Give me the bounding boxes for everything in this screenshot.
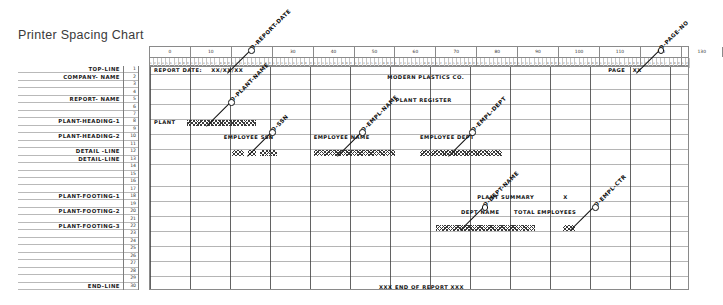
row-number-cell: 13 bbox=[124, 156, 138, 163]
row-label-text: DETAIL-LINE bbox=[78, 156, 120, 162]
ruler-unit-digit: 3 bbox=[158, 62, 160, 65]
row-number-text: 27 bbox=[130, 261, 136, 266]
row-number-text: 15 bbox=[130, 171, 136, 176]
row-label-text: REPORT- NAME bbox=[70, 96, 120, 102]
ruler-tens-label: 0 bbox=[169, 49, 172, 54]
row-label-18: PLANT-FOOTING-1 bbox=[18, 193, 123, 200]
row-number-cell: 25 bbox=[124, 245, 138, 252]
row-label-empty-3 bbox=[18, 81, 123, 88]
row-label-empty-19 bbox=[18, 200, 123, 207]
ruler-tens-label: 10 bbox=[208, 49, 214, 54]
row-label-empty-15 bbox=[18, 171, 123, 178]
row-label-empty-16 bbox=[18, 178, 123, 185]
row-number-text: 1 bbox=[133, 67, 136, 72]
ruler-unit-digit: 6 bbox=[252, 62, 254, 65]
o-page-no-bullet-icon bbox=[658, 47, 665, 54]
ruler-tens-cell: 60 bbox=[395, 47, 436, 57]
row-number-cell: 27 bbox=[124, 260, 138, 267]
row-number-cell: 22 bbox=[124, 223, 138, 230]
ruler-unit-digit: 8 bbox=[547, 62, 549, 65]
ruler-unit-digit: 4 bbox=[571, 62, 573, 65]
row-number-text: 16 bbox=[130, 179, 136, 184]
row-number-cell: 15 bbox=[124, 171, 138, 178]
ruler-tens-cell: 130 bbox=[682, 47, 723, 57]
row-label-empty-21 bbox=[18, 215, 123, 222]
row-number-text: 11 bbox=[130, 141, 136, 146]
ruler-unit-digit: 9 bbox=[469, 62, 471, 65]
ruler-unit-digit: 3 bbox=[281, 62, 283, 65]
ruler-tens-label: 90 bbox=[535, 49, 541, 54]
ruler-unit-digit: 4 bbox=[490, 62, 492, 65]
row-number-text: 9 bbox=[133, 126, 136, 131]
row-number-text: 24 bbox=[130, 238, 136, 243]
ruler-unit-digit: 0 bbox=[596, 62, 598, 65]
ruler-unit-digit: 7 bbox=[256, 62, 258, 65]
dept-name-field bbox=[436, 225, 534, 231]
ruler-tens-label: 40 bbox=[331, 49, 337, 54]
empl-dept-field bbox=[420, 150, 502, 156]
ruler-unit-digit: 9 bbox=[510, 62, 512, 65]
ruler-unit-digit: 7 bbox=[175, 62, 177, 65]
ruler-unit-digit: 5 bbox=[575, 62, 577, 65]
row-label-column: TOP-LINECOMPANY- NAMEREPORT- NAMEPLANT-H… bbox=[18, 66, 123, 290]
ruler-unit-digit: 1 bbox=[395, 62, 397, 65]
ruler-unit-digit: 8 bbox=[629, 62, 631, 65]
row-label-text: COMPANY- NAME bbox=[63, 73, 120, 79]
row-number-cell: 18 bbox=[124, 193, 138, 200]
ruler-tens-cell: 0 bbox=[150, 47, 191, 57]
ruler-unit-digit: 0 bbox=[555, 62, 557, 65]
ruler-unit-digit: 3 bbox=[445, 62, 447, 65]
ruler-tens-cell: 40 bbox=[314, 47, 355, 57]
ruler-unit-digit: 6 bbox=[375, 62, 377, 65]
ruler-unit-digit: 1 bbox=[314, 62, 316, 65]
row-number-cell: 11 bbox=[124, 141, 138, 148]
row-number-text: 7 bbox=[133, 111, 136, 116]
row-number-cell: 9 bbox=[124, 126, 138, 133]
row-label-30: END-LINE bbox=[18, 283, 123, 290]
ruler-unit-digit: 5 bbox=[330, 62, 332, 65]
ruler-unit-digit: 3 bbox=[485, 62, 487, 65]
row-number-text: 19 bbox=[130, 201, 136, 206]
ruler-unit-digit: 4 bbox=[203, 62, 205, 65]
empl-name-field bbox=[314, 150, 396, 156]
row-number-cell: 3 bbox=[124, 81, 138, 88]
ruler-tens-label: 110 bbox=[616, 49, 624, 54]
row-label-empty-29 bbox=[18, 275, 123, 282]
ruler-tens-label: 60 bbox=[413, 49, 419, 54]
ruler-unit-digit: 7 bbox=[297, 62, 299, 65]
row-number-cell: 20 bbox=[124, 208, 138, 215]
row-number-text: 3 bbox=[133, 82, 136, 87]
ruler-unit-digit: 1 bbox=[191, 62, 193, 65]
row-number-cell: 21 bbox=[124, 215, 138, 222]
row-number-text: 6 bbox=[133, 104, 136, 109]
company-name: MODERN PLASTICS CO. bbox=[387, 74, 464, 81]
ruler-unit-digit: 6 bbox=[457, 62, 459, 65]
o-empl-dept-bullet-icon bbox=[469, 129, 476, 136]
ruler-unit-digit: 9 bbox=[346, 62, 348, 65]
report-name: PLANT REGISTER bbox=[395, 97, 451, 104]
row-number-text: 29 bbox=[130, 276, 136, 281]
o-ssn-bullet-icon bbox=[269, 129, 276, 136]
ruler-unit-digit: 3 bbox=[526, 62, 528, 65]
ruler-unit-digit: 5 bbox=[657, 62, 659, 65]
row-label-text: PLANT-FOOTING-1 bbox=[59, 193, 120, 199]
ruler-unit-digit: 2 bbox=[400, 62, 402, 65]
row-label-empty-17 bbox=[18, 185, 123, 192]
row-number-cell: 30 bbox=[124, 283, 138, 290]
ruler-unit-digit: 6 bbox=[334, 62, 336, 65]
row-label-2: COMPANY- NAME bbox=[18, 73, 123, 80]
row-label-text: PLANT-FOOTING-2 bbox=[59, 208, 120, 214]
ruler-unit-digit: 5 bbox=[371, 62, 373, 65]
ruler-unit-digit: 0 bbox=[310, 62, 312, 65]
row-number-text: 28 bbox=[130, 268, 136, 273]
ruler-unit-digit: 2 bbox=[686, 62, 688, 65]
ruler-tens-label: 30 bbox=[290, 49, 296, 54]
ruler-unit-digit: 8 bbox=[506, 62, 508, 65]
ruler-unit-digit: 4 bbox=[244, 62, 246, 65]
plant-summary-value: X bbox=[563, 194, 568, 201]
ruler-tens-cell: 50 bbox=[355, 47, 396, 57]
ruler-unit-digit: 2 bbox=[195, 62, 197, 65]
ruler-unit-digit: 6 bbox=[620, 62, 622, 65]
row-number-text: 18 bbox=[130, 194, 136, 199]
